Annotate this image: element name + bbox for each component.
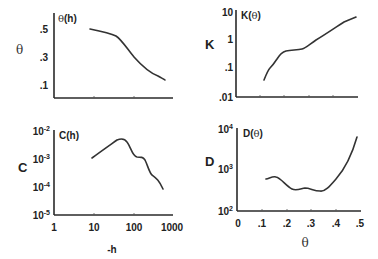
y-tick: .1 <box>40 80 49 91</box>
x-tick: 1 <box>51 222 57 233</box>
y-axis-label-c: C <box>18 160 28 175</box>
x-tick: 10 <box>88 222 100 233</box>
y-tick: 104 <box>218 123 233 135</box>
panel-title: C(h) <box>59 130 79 141</box>
x-axis-label: -h <box>107 244 116 255</box>
y-tick: .5 <box>40 24 49 35</box>
panel-title: θ(h) <box>58 13 77 24</box>
y-tick: 103 <box>218 163 233 175</box>
panel-title: K(θ) <box>241 10 261 21</box>
y-tick: 10-2 <box>33 125 50 137</box>
x-tick: .4 <box>332 218 341 229</box>
x-tick: 100 <box>126 222 143 233</box>
y-tick: 10-4 <box>33 181 50 193</box>
x-tick: .2 <box>283 218 292 229</box>
y-tick: 10 <box>222 7 234 18</box>
theta-h-curve <box>90 29 165 80</box>
y-axis-label-k: K <box>205 37 215 52</box>
k-theta-curve <box>264 17 356 80</box>
y-tick: .01 <box>219 92 233 103</box>
x-tick: .1 <box>258 218 267 229</box>
x-tick: .5 <box>356 218 365 229</box>
panel-title: D(θ) <box>243 128 263 139</box>
y-tick: .1 <box>225 62 234 73</box>
panel-d-theta: D 104 103 102 0 .1 .2 .3 .4 .5 θ D(θ) <box>205 123 365 250</box>
y-tick: 102 <box>218 205 233 217</box>
x-axis-label-theta: θ <box>301 236 308 250</box>
y-axis-label-d: D <box>205 154 214 169</box>
x-tick: 0 <box>235 218 241 229</box>
y-tick: .3 <box>40 52 49 63</box>
x-tick: .3 <box>307 218 316 229</box>
chart-figure: θ .5 .3 .1 θ(h) K 10 1 .1 .01 K(θ) C 10-… <box>0 0 378 259</box>
panel-c-h: C 10-2 10-3 10-4 10-5 1 10 100 1000 -h C… <box>18 125 184 255</box>
d-theta-curve <box>266 137 357 191</box>
c-h-curve <box>92 139 163 189</box>
y-axis-label-theta: θ <box>16 43 23 57</box>
y-tick: 1 <box>227 34 233 45</box>
x-tick: 1000 <box>161 222 184 233</box>
y-tick: 10-3 <box>33 153 50 165</box>
panel-theta-h: θ .5 .3 .1 θ(h) <box>16 13 173 98</box>
panel-k-theta: K 10 1 .1 .01 K(θ) <box>205 7 358 103</box>
y-tick: 10-5 <box>33 209 50 221</box>
